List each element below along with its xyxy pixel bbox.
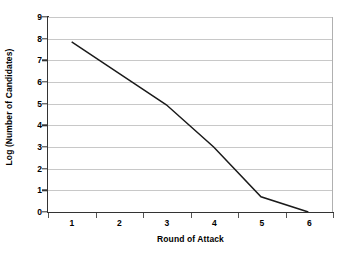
x-tick-label-3: 3 (152, 219, 182, 228)
x-tick-label-4: 4 (199, 219, 229, 228)
x-tick-label-2: 2 (104, 219, 134, 228)
x-axis-tick-labels: 123456 (48, 219, 333, 232)
y-tick-label-5: 5 (20, 99, 42, 108)
y-tick-label-8: 8 (20, 34, 42, 43)
x-tick-mark-0 (48, 213, 49, 218)
y-axis-title: Log (Number of Candidates) (0, 0, 18, 214)
y-tick-label-2: 2 (20, 164, 42, 173)
series-line-log-number-of-candidates (72, 42, 309, 212)
x-tick-label-6: 6 (294, 219, 324, 228)
x-tick-label-5: 5 (247, 219, 277, 228)
x-axis-tick-marks (48, 213, 333, 218)
x-tick-mark-2 (143, 213, 144, 218)
x-axis-title: Round of Attack (48, 234, 333, 244)
x-tick-label-1: 1 (57, 219, 87, 228)
y-tick-label-6: 6 (20, 78, 42, 87)
chart-figure: Log (Number of Candidates) 0123456789 12… (0, 0, 350, 256)
y-tick-label-3: 3 (20, 143, 42, 152)
x-tick-mark-6 (333, 213, 334, 218)
y-axis-tick-labels: 0123456789 (20, 17, 42, 212)
x-tick-mark-4 (238, 213, 239, 218)
y-tick-label-4: 4 (20, 121, 42, 130)
x-tick-mark-1 (96, 213, 97, 218)
plot-area (48, 17, 333, 212)
y-tick-label-0: 0 (20, 208, 42, 217)
y-tick-label-7: 7 (20, 56, 42, 65)
x-tick-mark-3 (191, 213, 192, 218)
data-series-layer (48, 17, 332, 212)
y-tick-label-1: 1 (20, 186, 42, 195)
y-tick-label-9: 9 (20, 13, 42, 22)
x-tick-mark-5 (286, 213, 287, 218)
y-axis-title-text: Log (Number of Candidates) (4, 49, 14, 166)
